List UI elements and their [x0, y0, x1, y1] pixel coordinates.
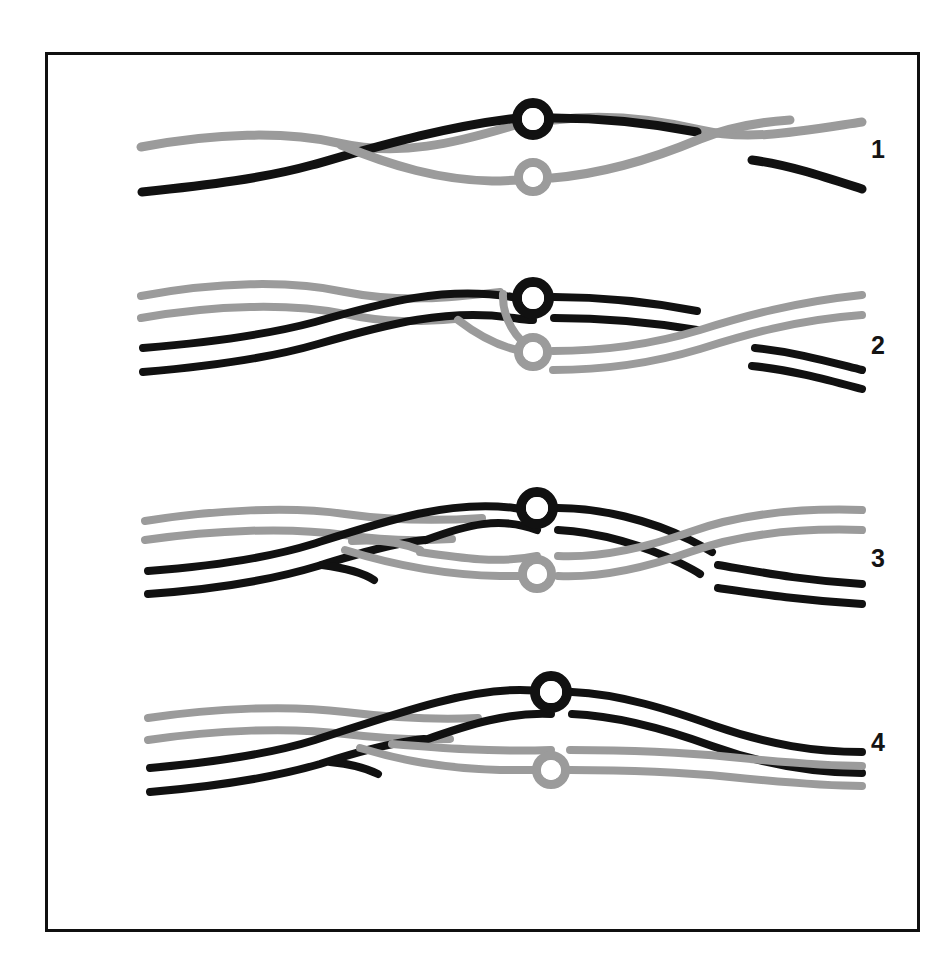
row-label-2: 2	[871, 333, 885, 358]
figure-root: 1 2 3 4	[0, 0, 934, 980]
row-label-4: 4	[871, 730, 885, 755]
row-label-1: 1	[871, 137, 885, 162]
figure-border-frame	[45, 52, 920, 932]
row-label-3: 3	[871, 546, 885, 571]
